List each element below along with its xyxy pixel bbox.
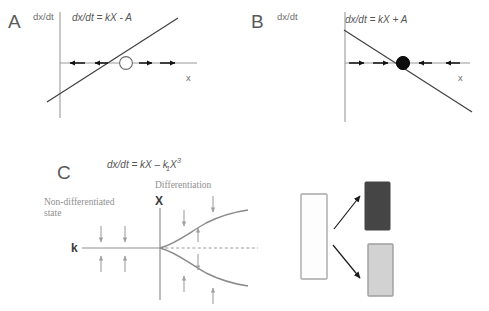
panel-a-fixed-point-unstable bbox=[120, 57, 133, 70]
panel-b-letter: B bbox=[251, 11, 264, 32]
panel-c-upper-stable-branch bbox=[160, 210, 248, 248]
progenitor-box bbox=[301, 194, 327, 279]
dark-fate-box bbox=[365, 182, 390, 230]
panel-b: B dx/dt dx/dt = kX + A x bbox=[251, 11, 472, 122]
panel-a: A dx/dt dx/dt = kX - A x bbox=[8, 11, 197, 118]
panel-c-nondiff-label-line2: state bbox=[44, 208, 61, 218]
panel-c-equation-variable: X bbox=[169, 159, 177, 170]
panel-c-k-axis-label: k bbox=[71, 241, 78, 255]
panel-c-equation-main: dx/dt = kX – k bbox=[107, 159, 169, 170]
panel-c-differentiation-label: Differentiation bbox=[155, 180, 212, 190]
panel-b-function-line bbox=[344, 30, 472, 112]
panel-c-lower-stable-branch bbox=[160, 248, 248, 286]
figure-canvas: A dx/dt dx/dt = kX - A x B dx/dt dx/dt =… bbox=[0, 0, 489, 311]
arrow-to-dark-fate bbox=[334, 196, 360, 229]
panel-b-y-axis-label: dx/dt bbox=[277, 11, 298, 22]
panel-a-function-line bbox=[47, 18, 178, 102]
figure-root: A dx/dt dx/dt = kX - A x B dx/dt dx/dt =… bbox=[0, 0, 489, 311]
panel-c-letter: C bbox=[57, 162, 71, 183]
panel-b-x-axis-label: x bbox=[458, 72, 463, 83]
panel-a-x-axis-label: x bbox=[186, 72, 191, 83]
panel-b-fixed-point-stable bbox=[396, 56, 409, 69]
panel-c-x-axis-label: X bbox=[155, 194, 163, 208]
panel-a-letter: A bbox=[8, 11, 21, 32]
panel-a-equation: dx/dt = kX - A bbox=[72, 12, 132, 23]
arrow-to-light-fate bbox=[333, 245, 360, 278]
panel-a-y-axis-label: dx/dt bbox=[33, 11, 54, 22]
cell-schematic bbox=[301, 182, 393, 296]
panel-c-equation-exponent: 3 bbox=[177, 157, 181, 164]
panel-c-nondiff-label-line1: Non-differentiated bbox=[44, 197, 115, 207]
panel-c: C dx/dt = kX – k 1 X 3 Differentiation N… bbox=[44, 157, 258, 304]
panel-b-equation: dx/dt = kX + A bbox=[345, 14, 408, 25]
light-fate-box bbox=[368, 244, 393, 296]
